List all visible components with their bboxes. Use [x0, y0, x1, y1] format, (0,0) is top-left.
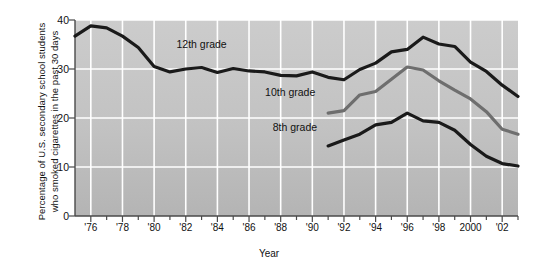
x-tick-label: '86: [243, 222, 256, 233]
series-label-2: 10th grade: [265, 86, 315, 98]
series-label-3: 8th grade: [273, 121, 318, 133]
x-tick-label: '94: [369, 222, 382, 233]
x-tick-label: '82: [179, 222, 192, 233]
x-tick-label: '78: [116, 222, 129, 233]
x-tick-label: '92: [337, 222, 350, 233]
x-tick-label: '02: [496, 222, 509, 233]
x-tick-label: '88: [274, 222, 287, 233]
x-axis-title: Year: [0, 248, 538, 259]
chart-figure: Percentage of U.S. secondary school stud…: [0, 0, 538, 275]
plot-canvas: 12th grade10th grade8th grade: [0, 0, 538, 275]
x-tick-label: '84: [211, 222, 224, 233]
x-tick-label: '96: [401, 222, 414, 233]
x-tick-label: '76: [84, 222, 97, 233]
series-label-1: 12th grade: [176, 38, 226, 50]
x-tick-label: '90: [306, 222, 319, 233]
x-tick-label: '80: [148, 222, 161, 233]
x-tick-label: 2000: [459, 222, 481, 233]
x-tick-label: '98: [432, 222, 445, 233]
